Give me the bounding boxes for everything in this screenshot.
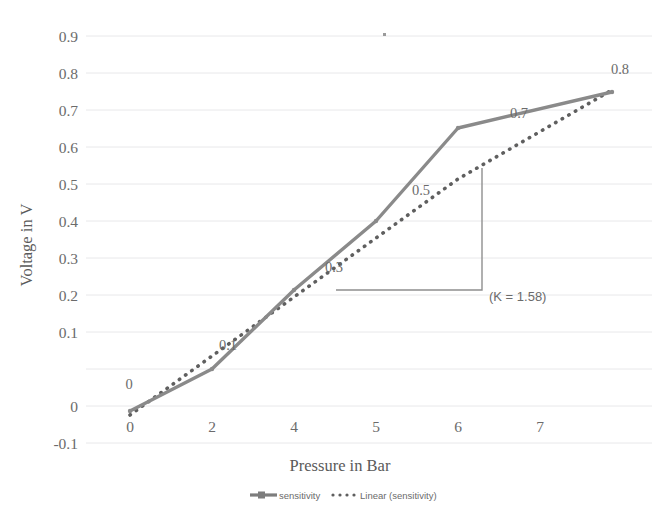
scan-speck	[383, 33, 386, 36]
x-tick-4: 6	[454, 418, 462, 435]
y-tick-5: 0.4	[59, 213, 79, 230]
y-tick-9: 0	[70, 398, 78, 415]
y-tick-0: 0.9	[59, 28, 79, 45]
y-tick-8: 0.1	[59, 324, 78, 341]
y-tick-10: -0.1	[53, 435, 78, 452]
x-tick-0: 0	[126, 418, 134, 435]
slope-k-label: (K = 1.58)	[489, 289, 546, 304]
x-tick-3: 5	[372, 418, 380, 435]
legend-label-sensitivity: sensitivity	[279, 490, 320, 501]
y-tick-7: 0.2	[59, 287, 78, 304]
y-tick-3: 0.6	[59, 139, 79, 156]
x-tick-1: 2	[208, 418, 216, 435]
y-tick-2: 0.7	[59, 102, 79, 119]
data-label-1: 0.1	[219, 337, 237, 353]
legend-marker-sensitivity	[258, 492, 265, 499]
data-label-4: 0.7	[510, 105, 528, 121]
marker-point-3	[374, 219, 378, 223]
data-label-5: 0.8	[611, 61, 629, 77]
data-label-3: 0.5	[412, 182, 430, 198]
data-label-2: 0.3	[325, 259, 343, 275]
chart-container: 0.9 0.8 0.7 0.6 0.5 0.4 0.3 0.2 0.1 0 -0…	[0, 0, 664, 520]
marker-point-4	[456, 126, 460, 130]
marker-point-5	[610, 90, 614, 94]
marker-point-0	[128, 409, 132, 413]
y-tick-4: 0.5	[59, 176, 79, 193]
x-axis-title: Pressure in Bar	[290, 456, 391, 475]
marker-point-1	[210, 367, 214, 371]
sensitivity-chart: 0.9 0.8 0.7 0.6 0.5 0.4 0.3 0.2 0.1 0 -0…	[0, 0, 664, 520]
x-tick-2: 4	[290, 418, 298, 435]
marker-point-2	[292, 288, 296, 292]
y-tick-1: 0.8	[59, 65, 79, 82]
y-axis-title: Voltage in V	[17, 204, 36, 287]
x-tick-5: 7	[536, 418, 544, 435]
legend-label-linear: Linear (sensitivity)	[360, 490, 437, 501]
data-label-0: 0	[125, 376, 132, 392]
y-tick-6: 0.3	[59, 250, 79, 267]
